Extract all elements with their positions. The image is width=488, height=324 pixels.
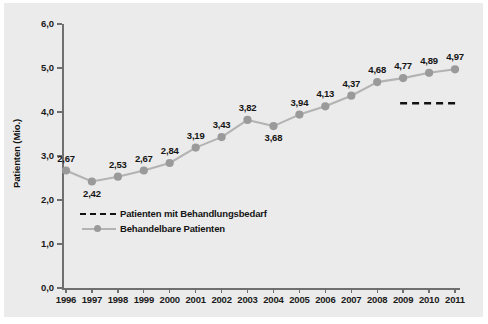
- data-point-marker: [451, 65, 459, 73]
- data-point-marker: [321, 102, 329, 110]
- legend-item-behandelbare: Behandelbare Patienten: [78, 221, 267, 236]
- data-point-label: 2,67: [51, 153, 81, 164]
- data-point-marker: [425, 69, 433, 77]
- data-point-label: 2,84: [155, 145, 185, 156]
- line-marker-key-icon: [78, 223, 120, 235]
- data-point-marker: [295, 111, 303, 119]
- chart-figure: Patienten (Mio.) 0,01,02,03,04,05,06,0 1…: [0, 0, 488, 324]
- dashed-line-key-icon: [78, 208, 120, 220]
- data-point-marker: [373, 78, 381, 86]
- data-point-marker: [192, 144, 200, 152]
- legend-label-behandelbare: Behandelbare Patienten: [120, 223, 225, 234]
- data-point-marker: [243, 116, 251, 124]
- data-point-marker: [218, 133, 226, 141]
- data-point-label: 4,97: [440, 51, 470, 62]
- data-point-label: 4,13: [310, 88, 340, 99]
- data-point-label: 4,37: [336, 78, 366, 89]
- data-point-marker: [269, 122, 277, 130]
- data-point-label: 3,82: [233, 102, 263, 113]
- data-point-marker: [347, 92, 355, 100]
- data-point-label: 2,42: [77, 188, 107, 199]
- data-point-marker: [114, 173, 122, 181]
- legend-label-behandlungsbedarf: Patienten mit Behandlungsbedarf: [120, 208, 267, 219]
- data-point-label: 3,68: [258, 132, 288, 143]
- legend-item-behandlungsbedarf: Patienten mit Behandlungsbedarf: [78, 206, 267, 221]
- data-point-label: 3,43: [207, 119, 237, 130]
- data-point-marker: [88, 177, 96, 185]
- data-point-marker: [140, 166, 148, 174]
- data-point-label: 3,19: [181, 130, 211, 141]
- data-point-marker: [166, 159, 174, 167]
- chart-legend: Patienten mit Behandlungsbedarf Behandel…: [78, 206, 267, 236]
- data-point-marker: [399, 74, 407, 82]
- data-point-marker: [62, 166, 70, 174]
